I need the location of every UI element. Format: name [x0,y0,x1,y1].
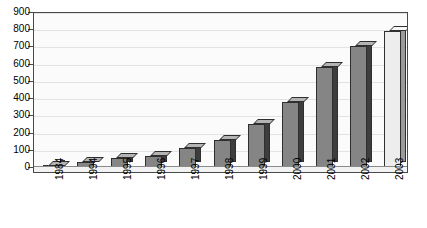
x-axis-label: 2002 [361,158,371,180]
x-axis-label: 2003 [395,158,405,180]
bar [350,41,367,167]
bar-top-face [253,119,275,124]
plot-area [33,12,408,173]
bar-top-face [389,26,408,31]
y-axis-label: 900 [13,7,30,17]
bar-side-face [333,62,338,162]
y-axis-line [33,12,34,173]
x-axis-label: 1996 [157,158,167,180]
y-axis-label: 400 [13,93,30,103]
bar-side-face [299,97,304,162]
bar-side-face [265,119,270,162]
x-axis-label: 1995 [123,158,133,180]
x-axis-label: 1999 [259,158,269,180]
bar-top-face [184,143,206,148]
x-axis-label: 1984 [55,158,65,180]
bar-front-face [316,67,333,167]
y-axis-label: 500 [13,76,30,86]
bar-chart: 0100200300400500600700800900 19841994199… [0,0,427,228]
bar-top-face [150,151,172,156]
bar [384,26,401,167]
y-axis-label: 800 [13,24,30,34]
bar-top-face [287,97,309,102]
bar [282,97,299,167]
bar-front-face [384,31,401,167]
x-axis-label: 2001 [327,158,337,180]
y-axis-label: 200 [13,128,30,138]
x-axis-label: 2000 [293,158,303,180]
bar-front-face [350,46,367,167]
gridline [34,30,407,31]
x-axis-label: 1994 [89,158,99,180]
y-axis-label: 300 [13,110,30,120]
bar-side-face [401,26,406,162]
bar [316,62,333,167]
bar-top-face [355,41,377,46]
bar-top-face [219,135,241,140]
bar-side-face [367,41,372,162]
y-axis-label: 0 [24,162,30,172]
gridline [34,13,407,14]
x-axis-label: 1997 [191,158,201,180]
x-axis-label: 1998 [225,158,235,180]
y-axis-label: 600 [13,59,30,69]
bar-top-face [321,62,343,67]
y-axis-label: 700 [13,41,30,51]
y-axis-label: 100 [13,145,30,155]
